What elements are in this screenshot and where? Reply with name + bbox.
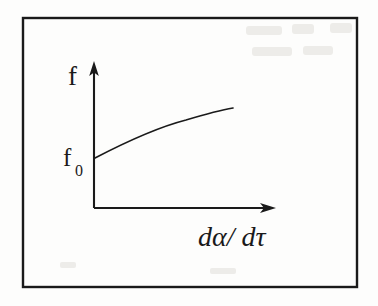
y-axis-label: f <box>68 61 77 91</box>
figure-root: f f 0 dα/ dτ <box>0 0 378 306</box>
scan-smudge <box>246 26 282 35</box>
scan-smudge <box>303 46 333 55</box>
y-intercept-label-subscript: 0 <box>75 162 83 179</box>
page-background <box>0 0 378 306</box>
scan-smudge <box>252 47 292 56</box>
scan-smudge <box>210 268 236 274</box>
y-intercept-label-base: f <box>63 144 72 171</box>
scan-smudge <box>292 24 314 34</box>
scan-smudge <box>60 262 76 268</box>
scan-smudge <box>330 23 352 33</box>
x-axis-label: dα/ dτ <box>198 221 266 252</box>
schematic-plot-canvas: f f 0 dα/ dτ <box>0 0 378 306</box>
